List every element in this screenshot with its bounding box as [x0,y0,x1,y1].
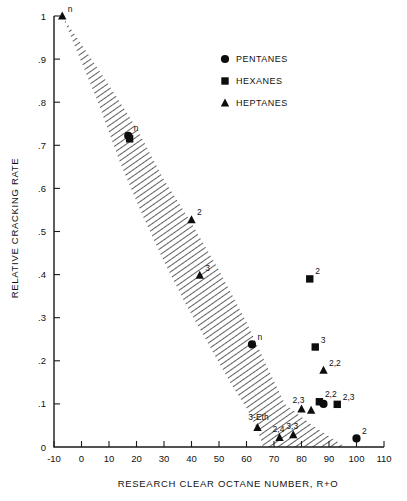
point-label: 3,3 [286,421,298,431]
y-tick-label: .8 [38,97,46,108]
data-point-triangle [58,11,66,19]
x-tick-label: 80 [296,453,307,464]
y-tick-label: .1 [38,398,46,409]
point-label: 2 [197,207,202,217]
legend-label: HEXANES [236,76,283,86]
x-axis-title: RESEARCH CLEAR OCTANE NUMBER, R+O [118,478,339,489]
point-label: 3 [321,335,326,345]
scatter-plot: -1001020304050607080901001100.1.2.3.4.5.… [0,0,407,501]
data-point-square [312,343,319,350]
point-label: 2 [315,266,320,276]
x-tick-label: 20 [131,453,142,464]
data-point-circle [221,55,229,63]
y-tick-label: 0 [41,442,46,453]
point-label: 2,3 [343,392,355,402]
data-point-triangle [319,366,327,374]
y-tick-label: 1 [41,11,46,22]
x-tick-label: 70 [269,453,280,464]
point-label: 2,3 [293,395,305,405]
data-point-triangle [297,404,305,412]
data-point-circle [352,434,360,442]
y-tick-label: .7 [38,140,46,151]
point-label: n [134,123,139,133]
data-point-square [316,398,323,405]
y-tick-label: .5 [38,226,46,237]
band-region [62,16,345,447]
x-tick-label: 10 [104,453,115,464]
point-label: 3 [205,263,210,273]
data-point-circle [248,340,256,348]
data-point-triangle [221,98,229,106]
y-tick-label: .6 [38,183,46,194]
point-label: 2,4 [273,424,285,434]
data-points: nn2232,32,2n232,23-Eth2,43,32,3 [58,4,367,443]
x-tick-label: -10 [47,453,61,464]
x-tick-label: 60 [241,453,252,464]
legend: PENTANESHEXANESHEPTANES [221,54,288,108]
x-tick-label: 30 [159,453,170,464]
point-label: 2 [362,426,367,436]
y-axis-title: RELATIVE CRACKING RATE [9,158,20,299]
x-tick-label: 90 [324,453,335,464]
data-point-square [334,401,341,408]
point-label: n [68,4,73,14]
data-point-triangle [307,406,315,414]
data-point-square [221,77,228,84]
chart-container: -1001020304050607080901001100.1.2.3.4.5.… [0,0,407,501]
point-label: n [258,332,263,342]
x-tick-label: 40 [186,453,197,464]
x-tick-label: 100 [349,453,365,464]
data-point-square [126,135,133,142]
y-tick-label: .9 [38,54,46,65]
y-tick-label: .3 [38,312,46,323]
x-tick-label: 110 [376,453,391,464]
y-tick-label: .4 [38,269,46,280]
legend-label: HEPTANES [236,98,288,108]
y-tick-label: .2 [38,355,46,366]
x-tick-label: 50 [214,453,225,464]
legend-label: PENTANES [236,54,288,64]
point-label: 2,2 [329,358,341,368]
data-point-square [306,275,313,282]
point-label: 3-Eth [248,412,269,422]
point-label: 2,2 [325,389,337,399]
hatched-band [62,16,345,447]
x-tick-label: 0 [79,453,84,464]
